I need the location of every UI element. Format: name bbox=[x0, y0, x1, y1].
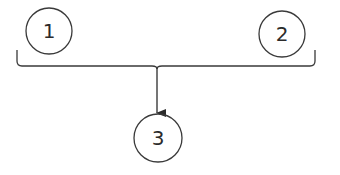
node-3-label: 3 bbox=[152, 126, 165, 150]
diagram-svg: 1 2 3 bbox=[0, 0, 340, 175]
node-3: 3 bbox=[134, 114, 182, 162]
node-2-label: 2 bbox=[276, 22, 289, 46]
merge-bracket bbox=[17, 50, 315, 69]
diagram-canvas: 1 2 3 bbox=[0, 0, 340, 175]
node-1: 1 bbox=[26, 8, 72, 54]
node-1-label: 1 bbox=[43, 19, 56, 43]
node-2: 2 bbox=[259, 11, 305, 57]
